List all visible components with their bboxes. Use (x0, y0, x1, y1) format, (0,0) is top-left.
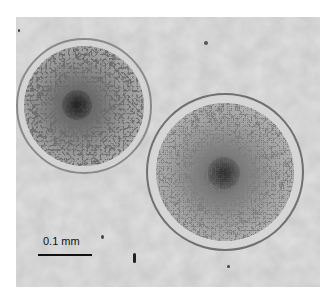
left-cell (16, 38, 152, 174)
debris-speck (227, 265, 230, 268)
scale-bar-line (38, 254, 92, 256)
micrograph: 0.1 mm (16, 17, 320, 287)
right-cell (146, 93, 304, 251)
debris-speck (101, 235, 104, 239)
scale-bar: 0.1 mm (38, 235, 98, 259)
debris-speck (133, 253, 136, 263)
scale-bar-label: 0.1 mm (43, 235, 80, 247)
debris-speck (204, 41, 208, 45)
debris-speck (18, 29, 20, 32)
